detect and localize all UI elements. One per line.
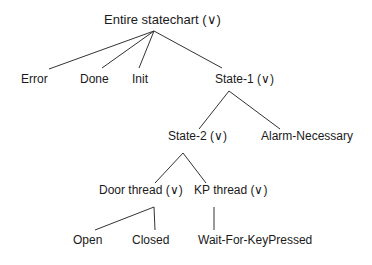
edge-door-closed xyxy=(154,207,155,230)
edge-state1-alarm xyxy=(229,91,280,129)
node-state-1: State-1 (∨) xyxy=(215,72,274,86)
node-entire-statechart: Entire statechart (∨) xyxy=(104,13,221,27)
edge-state2-kp xyxy=(183,153,206,183)
node-alarm-necessary: Alarm-Necessary xyxy=(261,129,353,143)
edge-state2-door xyxy=(155,153,183,183)
node-closed: Closed xyxy=(132,233,169,247)
edge-root-error xyxy=(49,31,154,69)
node-done: Done xyxy=(80,72,109,86)
edge-root-state1 xyxy=(154,31,222,68)
edge-state1-state2 xyxy=(199,91,229,129)
node-state-2: State-2 (∨) xyxy=(168,129,227,143)
node-kp-thread: KP thread (∨) xyxy=(194,183,267,197)
node-error: Error xyxy=(21,72,48,86)
node-wait-for-keypressed: Wait-For-KeyPressed xyxy=(198,233,312,247)
node-init: Init xyxy=(132,72,148,86)
node-open: Open xyxy=(73,233,102,247)
node-door-thread: Door thread (∨) xyxy=(99,183,183,197)
edge-door-open xyxy=(95,207,154,230)
